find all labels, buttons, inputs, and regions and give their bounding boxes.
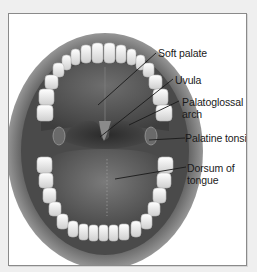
diagram-panel: Soft palate Uvula Palatoglossal arch Pal…: [8, 13, 247, 266]
label-uvula: Uvula: [175, 74, 201, 86]
label-palatine-tonsil: Palatine tonsil: [185, 132, 247, 144]
label-dorsum-of-tongue: Dorsum of tongue: [187, 162, 235, 186]
tonsil-right: [145, 127, 157, 145]
label-palatoglossal-arch: Palatoglossal arch: [182, 96, 243, 120]
tonsil-left: [53, 127, 65, 145]
label-soft-palate: Soft palate: [158, 47, 207, 59]
